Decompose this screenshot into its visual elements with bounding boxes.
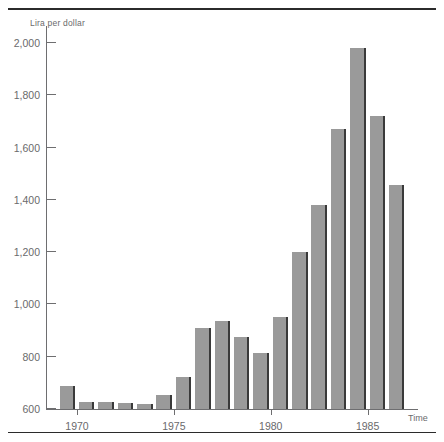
plot-area: 6008001,0001,2001,4001,6001,8002,000 197… bbox=[46, 22, 426, 410]
bar bbox=[253, 353, 269, 409]
y-tick bbox=[46, 94, 56, 95]
y-tick-label: 2,000 bbox=[2, 37, 40, 49]
y-tick-label: 1,600 bbox=[2, 142, 40, 154]
y-tick-label: 1,800 bbox=[2, 89, 40, 101]
bar bbox=[389, 185, 405, 409]
x-tick-label: 1970 bbox=[65, 420, 88, 432]
top-divider-rule bbox=[8, 8, 436, 10]
bar bbox=[370, 116, 386, 409]
y-tick bbox=[46, 251, 56, 252]
bottom-divider-rule bbox=[8, 432, 436, 433]
y-tick bbox=[46, 408, 56, 409]
y-tick bbox=[46, 42, 56, 43]
y-tick-label: 1,000 bbox=[2, 298, 40, 310]
y-tick-label: 1,200 bbox=[2, 246, 40, 258]
bar bbox=[350, 48, 366, 409]
y-tick-label: 800 bbox=[2, 351, 40, 363]
bar bbox=[215, 321, 231, 409]
x-tick bbox=[271, 410, 272, 415]
bar bbox=[156, 395, 172, 409]
x-tick bbox=[174, 410, 175, 415]
bar bbox=[234, 337, 250, 409]
bar bbox=[60, 386, 76, 409]
bar bbox=[331, 129, 347, 409]
x-tick-label: 1985 bbox=[356, 420, 379, 432]
bar bbox=[137, 404, 153, 409]
bar bbox=[176, 377, 192, 409]
bar bbox=[195, 328, 211, 409]
bar bbox=[292, 252, 308, 409]
y-tick-label: 600 bbox=[2, 403, 40, 415]
y-axis-line bbox=[46, 26, 47, 410]
bar bbox=[79, 402, 95, 409]
y-tick-label: 1,400 bbox=[2, 194, 40, 206]
chart-figure: Lira per dollar Time 6008001,0001,2001,4… bbox=[0, 0, 444, 442]
y-tick bbox=[46, 147, 56, 148]
bar bbox=[118, 403, 134, 409]
bar bbox=[311, 205, 327, 409]
y-tick bbox=[46, 303, 56, 304]
x-tick-label: 1980 bbox=[259, 420, 282, 432]
x-tick-label: 1975 bbox=[162, 420, 185, 432]
x-axis-line bbox=[46, 409, 418, 410]
y-tick bbox=[46, 356, 56, 357]
bar bbox=[98, 402, 114, 409]
y-tick bbox=[46, 199, 56, 200]
x-axis-caption: Time bbox=[408, 413, 428, 423]
bar bbox=[273, 317, 289, 409]
x-tick bbox=[77, 410, 78, 415]
x-tick bbox=[368, 410, 369, 415]
